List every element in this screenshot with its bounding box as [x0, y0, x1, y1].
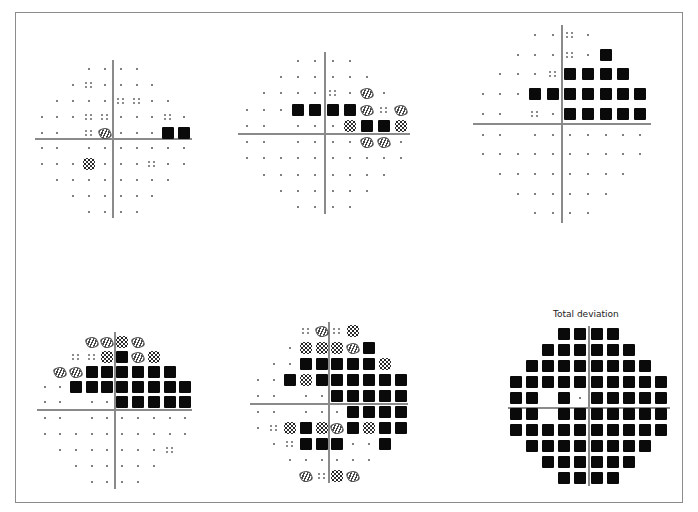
- normal-dot-icon: [177, 141, 191, 155]
- normal-dot-icon: [98, 173, 112, 187]
- normal-dot-icon: [581, 128, 595, 142]
- p1-checker-icon: [299, 373, 313, 387]
- p5-quad-dot-icon: [82, 110, 96, 124]
- p2-hatched-icon: [360, 86, 374, 100]
- normal-dot-icon: [633, 128, 647, 142]
- normal-dot-icon: [114, 110, 128, 124]
- normal-dot-icon: [581, 206, 595, 220]
- p05-black-square-icon: [362, 357, 376, 371]
- normal-dot-icon: [35, 157, 49, 171]
- p05-black-square-icon: [622, 407, 636, 421]
- p05-black-square-icon: [563, 67, 577, 81]
- normal-dot-icon: [308, 168, 322, 182]
- normal-dot-icon: [53, 411, 67, 425]
- normal-dot-icon: [493, 147, 507, 161]
- p05-black-square-icon: [557, 327, 571, 341]
- normal-dot-icon: [326, 70, 340, 84]
- p05-black-square-icon: [606, 343, 620, 357]
- p05-black-square-icon: [509, 407, 523, 421]
- p05-black-square-icon: [378, 373, 392, 387]
- normal-dot-icon: [100, 395, 114, 409]
- normal-dot-icon: [394, 135, 408, 149]
- p05-black-square-icon: [178, 380, 192, 394]
- normal-dot-icon: [85, 395, 99, 409]
- normal-dot-icon: [82, 141, 96, 155]
- p05-black-square-icon: [638, 375, 652, 389]
- p05-black-square-icon: [599, 48, 613, 62]
- p05-black-square-icon: [346, 357, 360, 371]
- normal-dot-icon: [69, 427, 83, 441]
- p05-black-square-icon: [573, 423, 587, 437]
- p05-black-square-icon: [638, 407, 652, 421]
- normal-dot-icon: [240, 135, 254, 149]
- normal-dot-icon: [147, 427, 161, 441]
- p05-black-square-icon: [100, 380, 114, 394]
- p5-quad-dot-icon: [163, 443, 177, 457]
- normal-dot-icon: [69, 459, 83, 473]
- p05-black-square-icon: [315, 373, 329, 387]
- p05-black-square-icon: [633, 107, 647, 121]
- p05-black-square-icon: [378, 389, 392, 403]
- p05-black-square-icon: [654, 375, 668, 389]
- normal-dot-icon: [581, 167, 595, 181]
- normal-dot-icon: [53, 380, 67, 394]
- normal-dot-icon: [145, 189, 159, 203]
- p05-black-square-icon: [581, 87, 595, 101]
- normal-dot-icon: [35, 126, 49, 140]
- normal-dot-icon: [98, 205, 112, 219]
- p05-black-square-icon: [638, 423, 652, 437]
- normal-dot-icon: [115, 459, 129, 473]
- normal-dot-icon: [343, 70, 357, 84]
- normal-dot-icon: [267, 389, 281, 403]
- normal-dot-icon: [85, 459, 99, 473]
- normal-dot-icon: [546, 187, 560, 201]
- normal-dot-icon: [50, 141, 64, 155]
- normal-dot-icon: [267, 357, 281, 371]
- p1-checker-icon: [394, 119, 408, 133]
- p5-quad-dot-icon: [563, 28, 577, 42]
- p05-black-square-icon: [69, 380, 83, 394]
- normal-dot-icon: [82, 189, 96, 203]
- normal-dot-icon: [85, 411, 99, 425]
- p05-black-square-icon: [606, 391, 620, 405]
- p05-black-square-icon: [606, 327, 620, 341]
- normal-dot-icon: [343, 151, 357, 165]
- normal-dot-icon: [599, 167, 613, 181]
- normal-dot-icon: [145, 141, 159, 155]
- p1-checker-icon: [115, 335, 129, 349]
- normal-dot-icon: [131, 427, 145, 441]
- normal-dot-icon: [114, 157, 128, 171]
- p05-black-square-icon: [606, 455, 620, 469]
- normal-dot-icon: [82, 62, 96, 76]
- p05-black-square-icon: [622, 455, 636, 469]
- normal-dot-icon: [274, 103, 288, 117]
- p05-black-square-icon: [131, 365, 145, 379]
- p05-black-square-icon: [362, 373, 376, 387]
- normal-dot-icon: [283, 341, 297, 355]
- normal-dot-icon: [35, 141, 49, 155]
- normal-dot-icon: [362, 437, 376, 451]
- p05-black-square-icon: [557, 407, 571, 421]
- normal-dot-icon: [528, 28, 542, 42]
- p5-quad-dot-icon: [528, 107, 542, 121]
- normal-dot-icon: [546, 206, 560, 220]
- normal-dot-icon: [100, 459, 114, 473]
- p05-black-square-icon: [343, 103, 357, 117]
- p5-quad-dot-icon: [161, 110, 175, 124]
- normal-dot-icon: [360, 70, 374, 84]
- normal-dot-icon: [476, 107, 490, 121]
- p05-black-square-icon: [330, 437, 344, 451]
- p05-black-square-icon: [573, 359, 587, 373]
- p05-black-square-icon: [315, 357, 329, 371]
- p05-black-square-icon: [622, 359, 636, 373]
- p05-black-square-icon: [654, 391, 668, 405]
- p05-black-square-icon: [557, 359, 571, 373]
- normal-dot-icon: [85, 443, 99, 457]
- p05-black-square-icon: [346, 373, 360, 387]
- normal-dot-icon: [377, 168, 391, 182]
- normal-dot-icon: [161, 173, 175, 187]
- normal-dot-icon: [267, 437, 281, 451]
- normal-dot-icon: [257, 103, 271, 117]
- normal-dot-icon: [546, 107, 560, 121]
- p05-black-square-icon: [362, 341, 376, 355]
